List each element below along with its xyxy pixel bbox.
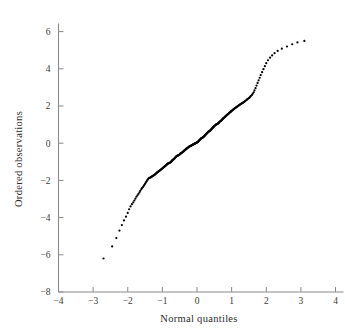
- x-tick-label: −3: [88, 296, 98, 306]
- data-point: [127, 212, 129, 214]
- data-point: [303, 40, 305, 42]
- x-tick-label: 4: [333, 296, 338, 306]
- data-point: [256, 82, 258, 84]
- data-point: [255, 84, 257, 86]
- qq-plot-figure: −8−6−4−20246 −4−3−2−101234 Normal quanti…: [0, 0, 345, 331]
- y-tick-label: 0: [46, 139, 51, 149]
- data-point: [102, 257, 104, 259]
- data-point: [125, 216, 127, 218]
- data-point: [273, 52, 275, 54]
- data-point: [296, 41, 298, 43]
- data-point: [254, 87, 256, 89]
- data-point: [115, 237, 117, 239]
- x-tick-label: 2: [264, 296, 269, 306]
- data-point-series: [102, 40, 305, 260]
- data-point: [267, 59, 269, 61]
- y-tick-label: 6: [46, 27, 51, 37]
- data-point: [261, 71, 263, 73]
- data-point: [131, 203, 133, 205]
- data-point: [286, 45, 288, 47]
- y-axis: −8−6−4−20246: [40, 24, 63, 298]
- data-point: [128, 208, 130, 210]
- y-tick-label: 2: [46, 101, 51, 111]
- data-point: [265, 62, 267, 64]
- data-point: [277, 50, 279, 52]
- data-point: [271, 54, 273, 56]
- data-point: [253, 89, 255, 91]
- x-tick-label: −1: [157, 296, 167, 306]
- y-axis-title: Ordered observations: [13, 111, 24, 207]
- data-point: [258, 79, 260, 81]
- data-point: [259, 77, 261, 79]
- data-point: [264, 65, 266, 67]
- data-point: [262, 68, 264, 70]
- data-point: [132, 201, 134, 203]
- data-point: [118, 230, 120, 232]
- data-point: [121, 224, 123, 226]
- y-tick-label: 4: [46, 64, 51, 74]
- data-point: [269, 57, 271, 59]
- x-tick-label: 3: [299, 296, 304, 306]
- data-point: [123, 219, 125, 221]
- y-tick-label: −6: [40, 250, 50, 260]
- data-point: [260, 74, 262, 76]
- x-tick-label: −4: [53, 296, 63, 306]
- data-point: [281, 48, 283, 50]
- data-point: [134, 198, 136, 200]
- x-axis-title: Normal quantiles: [160, 313, 237, 324]
- x-tick-label: −2: [123, 296, 133, 306]
- x-tick-label: 1: [229, 296, 234, 306]
- x-tick-label: 0: [195, 296, 200, 306]
- y-tick-label: −8: [40, 287, 50, 297]
- data-point: [133, 199, 135, 201]
- data-point: [291, 43, 293, 45]
- plot-canvas: −8−6−4−20246 −4−3−2−101234 Normal quanti…: [0, 0, 345, 331]
- x-axis: −4−3−2−101234: [53, 287, 343, 306]
- y-tick-label: −4: [40, 213, 50, 223]
- data-point: [129, 205, 131, 207]
- y-tick-label: −2: [40, 176, 50, 186]
- data-point: [111, 245, 113, 247]
